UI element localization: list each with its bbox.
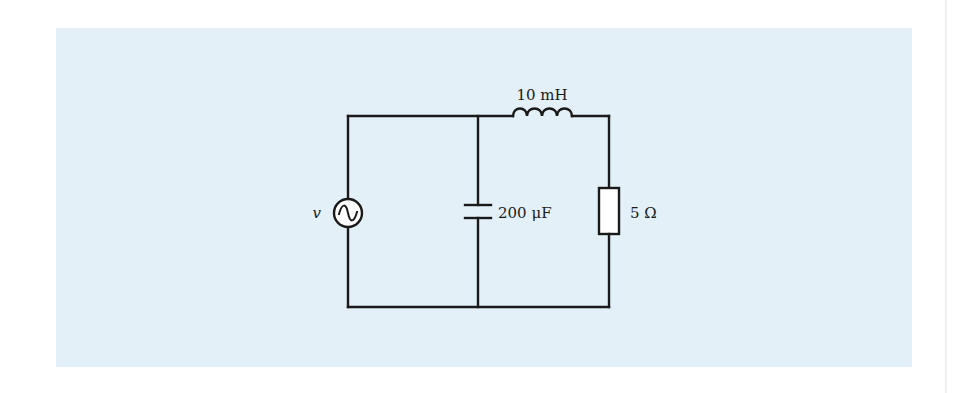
source-label: v bbox=[313, 204, 322, 222]
resistor-icon bbox=[599, 188, 619, 234]
circuit-diagram: 10 mH v 200 μF 5 Ω bbox=[0, 0, 953, 393]
capacitor-label: 200 μF bbox=[498, 204, 552, 222]
inductor-icon bbox=[513, 109, 572, 117]
ac-source-icon bbox=[334, 199, 362, 227]
page: 10 mH v 200 μF 5 Ω bbox=[0, 0, 953, 393]
resistor-label: 5 Ω bbox=[630, 204, 657, 222]
inductor-label: 10 mH bbox=[516, 86, 567, 104]
